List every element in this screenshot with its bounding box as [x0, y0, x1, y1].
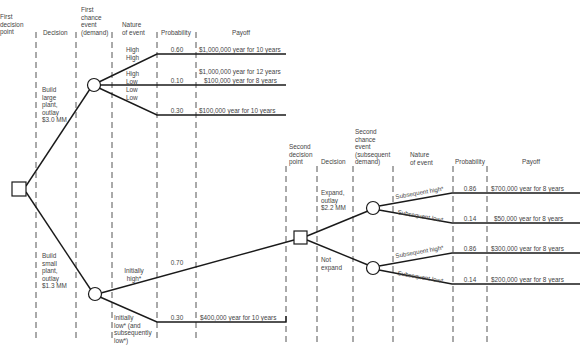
header-nature-of-event-2: Nature of event	[410, 151, 433, 166]
header-second-chance-event: Second chance event (subsequent demand)	[355, 128, 390, 166]
nature-high-low: High Low	[126, 70, 139, 85]
payoff-high-low-top: $1,000,000 year for 12 years	[199, 68, 281, 76]
decision-not-expand: Not expand	[321, 256, 342, 271]
probability-low-low: 0.30	[160, 107, 194, 115]
nature-high-high: High High	[126, 46, 139, 61]
payoff-high-high: $1,000,000 year for 10 years	[199, 46, 281, 54]
header-first-decision-point: First decision point	[0, 13, 34, 36]
first-decision-node	[12, 182, 26, 196]
payoff-initially-low: $400,000 year for 10 years	[200, 314, 276, 322]
payoff-not-expand-high: $300,000 year for 8 years	[491, 245, 564, 253]
payoff-low-low: $100,000 year for 10 years	[199, 107, 275, 115]
header-nature-of-event-1: Nature of event	[122, 21, 145, 36]
payoff-expand-high: $700,000 year for 8 years	[491, 185, 564, 193]
probability-high-low: 0.10	[160, 77, 194, 85]
probability-not-expand-high: 0.86	[455, 245, 485, 253]
probability-expand-low: 0.14	[455, 215, 485, 223]
first-chance-node-small	[89, 288, 102, 301]
second-chance-node-expand	[367, 202, 380, 215]
probability-expand-high: 0.86	[455, 185, 485, 193]
nature-initially-low: Initially low* (and subsequently low*)	[114, 314, 152, 344]
header-decision-2: Decision	[321, 158, 346, 166]
decision-build-small-plant: Build small plant, outlay $1.3 MM	[42, 252, 67, 290]
nature-initially-high: Initially high*	[118, 267, 150, 282]
payoff-expand-low: $50,000 year for 8 years	[494, 215, 563, 223]
header-payoff-1: Payoff	[232, 29, 250, 37]
probability-high-high: 0.60	[160, 46, 194, 54]
header-second-decision-point: Second decision point	[289, 143, 312, 166]
second-chance-node-not-expand	[367, 262, 380, 275]
header-payoff-2: Payoff	[522, 158, 540, 166]
payoff-not-expand-low: $200,000 year for 8 years	[491, 276, 564, 284]
probability-initially-high: 0.70	[160, 259, 194, 267]
nature-low-low: Low Low	[126, 86, 138, 101]
header-probability-2: Probability	[455, 158, 485, 166]
header-probability-1: Probability	[161, 29, 191, 37]
first-chance-node-large	[88, 79, 101, 92]
payoff-high-low: $100,000 year for 8 years	[204, 77, 277, 85]
tree-lines	[0, 0, 588, 362]
header-first-chance-event: First chance event (demand)	[81, 6, 108, 36]
header-decision-1: Decision	[43, 29, 68, 37]
decision-build-large-plant: Build large plant, outlay $3.0 MM	[42, 86, 67, 124]
probability-initially-low: 0.30	[160, 314, 194, 322]
decision-tree-diagram: First decision point Decision First chan…	[0, 0, 588, 362]
second-decision-node	[294, 231, 307, 244]
decision-expand: Expand, outlay $2.2 MM	[321, 189, 346, 212]
probability-not-expand-low: 0.14	[455, 276, 485, 284]
